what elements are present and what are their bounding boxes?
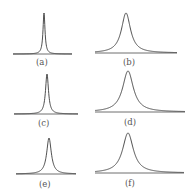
panel-a: (a) — [13, 13, 72, 67]
peak-curve-f — [95, 133, 184, 172]
panel-label-b: (b) — [123, 57, 135, 67]
panel-label-c: (c) — [38, 118, 49, 128]
peak-curve-d — [95, 71, 185, 111]
panel-c: (c) — [14, 74, 78, 128]
panel-d: (d) — [95, 71, 185, 127]
panel-label-d: (d) — [124, 117, 136, 127]
panel-f: (f) — [95, 133, 184, 188]
peak-curve-b — [95, 13, 177, 53]
panel-e: (e) — [16, 138, 76, 189]
figure-grid: (a) (b) (c) (d) (e) (f) — [0, 0, 196, 195]
peak-curve-e — [16, 138, 76, 174]
panel-label-e: (e) — [39, 179, 51, 189]
panel-label-f: (f) — [125, 178, 135, 188]
peak-curve-c — [14, 74, 78, 114]
panel-label-a: (a) — [36, 57, 48, 67]
peak-curve-a — [13, 13, 72, 54]
panel-b: (b) — [95, 13, 177, 67]
